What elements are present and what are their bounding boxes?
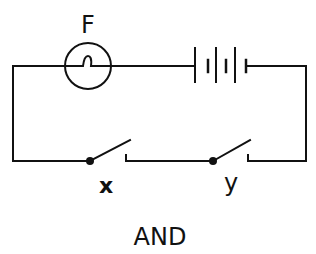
lamp-filament bbox=[65, 56, 111, 66]
circuit-diagram: F x y AND bbox=[0, 0, 316, 254]
switch-x-pivot bbox=[86, 157, 94, 165]
battery-icon bbox=[195, 48, 246, 82]
caption: AND bbox=[134, 223, 187, 251]
switch-y-label: y bbox=[224, 169, 238, 197]
switch-y-lever bbox=[213, 140, 250, 161]
wire-right bbox=[246, 66, 306, 161]
wire-middle bbox=[126, 155, 213, 161]
switch-x-lever bbox=[90, 140, 130, 161]
lamp-label: F bbox=[81, 11, 95, 39]
wire-top-left bbox=[13, 66, 65, 161]
switch-y-pivot bbox=[209, 157, 217, 165]
switch-x-label: x bbox=[99, 173, 113, 198]
